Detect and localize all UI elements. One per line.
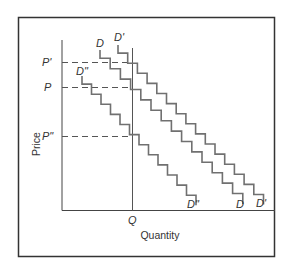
- curve-label-d-double-bottom: D": [187, 198, 200, 210]
- chart-frame: [19, 18, 275, 257]
- demand-shift-chart: P' P P" Q Price Quantity D" D D' D" D D': [0, 0, 304, 274]
- curve-label-d-double-top: D": [76, 65, 89, 77]
- tick-label-p-double: P": [42, 130, 54, 142]
- tick-label-p-prime: P': [42, 56, 52, 68]
- curve-label-d-bottom: D: [236, 198, 244, 210]
- y-axis-title: Price: [30, 132, 42, 156]
- tick-label-q: Q: [128, 214, 137, 226]
- demand-curve-d: [100, 50, 243, 204]
- curve-label-d-prime-top: D': [114, 31, 125, 43]
- tick-label-p: P: [44, 81, 52, 93]
- demand-curve-d-double: [82, 76, 196, 205]
- curve-label-d-prime-bottom: D': [256, 197, 267, 209]
- demand-curve-d-prime: [118, 45, 264, 205]
- x-axis-title: Quantity: [140, 229, 180, 241]
- curve-label-d-top: D: [96, 37, 104, 49]
